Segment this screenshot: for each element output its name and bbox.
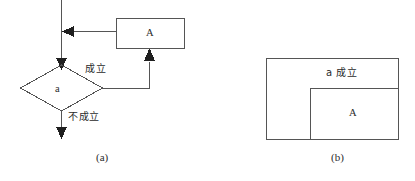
figure-container: a 成立 不成立 A (a) a 成立 A (b) [0, 0, 415, 181]
caption-b: (b) [331, 152, 344, 163]
true-branch-arrowhead-icon [144, 48, 155, 61]
caption-a: (a) [96, 152, 108, 163]
outer-region-label: a 成立 [326, 68, 357, 78]
inner-region-label: A [349, 108, 357, 119]
false-branch-arrowhead-icon [56, 127, 67, 139]
figure-graphics [0, 0, 415, 181]
decision-node-label: a [55, 84, 60, 95]
process-box-a-label: A [146, 28, 154, 39]
false-branch-label: 不成立 [68, 112, 100, 122]
true-branch-line [103, 62, 150, 89]
loop-back-arrowhead-icon [62, 26, 74, 37]
true-branch-label: 成立 [85, 64, 106, 74]
entry-arrowhead-icon [56, 58, 67, 70]
